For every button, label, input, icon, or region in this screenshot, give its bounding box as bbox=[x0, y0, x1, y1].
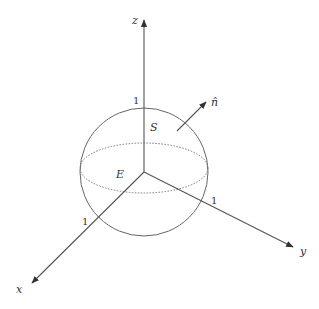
z-tick-label: 1 bbox=[133, 95, 139, 106]
x-axis bbox=[32, 172, 144, 283]
normal-vector-label: n̂ bbox=[211, 96, 218, 109]
z-axis-label: z bbox=[131, 14, 138, 27]
normal-vector-arrow bbox=[177, 102, 206, 131]
surface-label: S bbox=[150, 121, 158, 134]
y-tick-label: 1 bbox=[211, 195, 217, 206]
region-label: E bbox=[115, 168, 124, 181]
x-tick-label: 1 bbox=[82, 216, 88, 227]
sphere-diagram: z y x 1 1 1 S E n̂ bbox=[0, 0, 319, 309]
x-axis-label: x bbox=[16, 283, 23, 296]
y-axis-label: y bbox=[299, 245, 307, 258]
y-axis bbox=[144, 172, 293, 247]
